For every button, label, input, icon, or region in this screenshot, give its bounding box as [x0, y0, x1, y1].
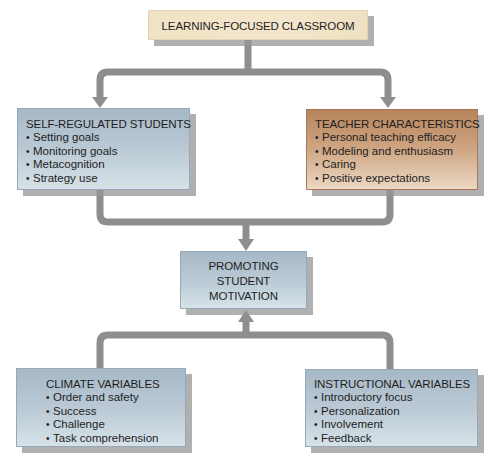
climate-variables-box: CLIMATE VARIABLES Order and safety Succe… — [16, 368, 186, 447]
connector-middle-merge — [100, 190, 390, 222]
box-title: CLIMATE VARIABLES — [46, 377, 185, 391]
list-item: Caring — [315, 158, 477, 172]
box-title-line: MOTIVATION — [181, 289, 306, 304]
list-item: Introductory focus — [314, 391, 477, 405]
list-item: Task comprehension — [46, 432, 185, 446]
item-list: Personal teaching efficacy Modeling and … — [315, 131, 477, 185]
box-title: SELF-REGULATED STUDENTS — [26, 117, 189, 131]
promoting-student-motivation-box: PROMOTING STUDENT MOTIVATION — [180, 251, 307, 309]
item-list: Setting goals Monitoring goals Metacogni… — [26, 131, 189, 185]
list-item: Strategy use — [26, 172, 189, 186]
list-item: Challenge — [46, 418, 185, 432]
list-item: Setting goals — [26, 131, 189, 145]
arrow-up-icon — [238, 310, 254, 322]
connector-top-branch — [100, 72, 388, 99]
box-title-line: STUDENT — [181, 274, 306, 289]
list-item: Personalization — [314, 405, 477, 419]
box-title: LEARNING-FOCUSED CLASSROOM — [149, 11, 367, 41]
list-item: Success — [46, 405, 185, 419]
arrow-down-icon — [92, 97, 108, 108]
item-list: Introductory focus Personalization Invol… — [314, 391, 477, 445]
teacher-characteristics-box: TEACHER CHARACTERISTICS Personal teachin… — [306, 109, 478, 190]
box-title: INSTRUCTIONAL VARIABLES — [314, 377, 477, 391]
list-item: Order and safety — [46, 391, 185, 405]
list-item: Metacognition — [26, 158, 189, 172]
instructional-variables-box: INSTRUCTIONAL VARIABLES Introductory foc… — [305, 369, 478, 447]
self-regulated-students-box: SELF-REGULATED STUDENTS Setting goals Mo… — [17, 108, 190, 190]
item-list: Order and safety Success Challenge Task … — [46, 391, 185, 445]
learning-focused-classroom-box: LEARNING-FOCUSED CLASSROOM — [148, 10, 368, 40]
box-title: TEACHER CHARACTERISTICS — [315, 117, 477, 131]
connector-bottom-merge — [100, 335, 390, 369]
list-item: Modeling and enthusiasm — [315, 145, 477, 159]
list-item: Feedback — [314, 432, 477, 446]
arrow-down-icon — [238, 239, 254, 251]
box-title-line: PROMOTING — [181, 259, 306, 274]
list-item: Positive expectations — [315, 172, 477, 186]
list-item: Monitoring goals — [26, 145, 189, 159]
list-item: Involvement — [314, 418, 477, 432]
arrow-down-icon — [380, 97, 396, 108]
list-item: Personal teaching efficacy — [315, 131, 477, 145]
